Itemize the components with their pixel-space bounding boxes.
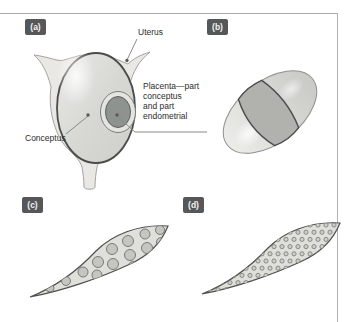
spot	[244, 252, 248, 256]
spot	[196, 223, 200, 227]
panel-c-label: (c)	[22, 197, 43, 213]
spot	[220, 252, 224, 256]
spot	[328, 273, 332, 277]
spot	[332, 252, 336, 256]
spot	[228, 281, 232, 285]
spot	[224, 230, 228, 234]
spot	[308, 237, 312, 241]
spot	[320, 259, 324, 263]
uterus-pointer-dot	[125, 59, 128, 62]
spot	[292, 252, 296, 256]
spot	[268, 252, 272, 256]
spot	[312, 288, 316, 292]
spot	[200, 245, 204, 249]
spot	[340, 223, 344, 227]
spot	[200, 230, 204, 234]
spot	[344, 273, 348, 277]
spot	[280, 273, 284, 277]
spot	[224, 259, 228, 263]
spot	[280, 245, 284, 249]
spot	[228, 266, 232, 270]
spot	[264, 230, 268, 234]
spot	[296, 288, 300, 292]
spot	[252, 266, 256, 270]
spot	[296, 230, 300, 234]
spot	[232, 288, 236, 292]
spot	[332, 281, 336, 285]
spot	[300, 252, 304, 256]
spot	[320, 288, 324, 292]
spot	[312, 230, 316, 234]
spot	[232, 259, 236, 263]
panel-a-label: (a)	[25, 19, 46, 35]
spot	[268, 237, 272, 241]
spot	[204, 266, 208, 270]
spot	[340, 281, 344, 285]
spot	[308, 281, 312, 285]
spot	[142, 243, 153, 254]
spot	[216, 259, 220, 263]
spot	[236, 266, 240, 270]
spot	[228, 223, 232, 227]
spot	[240, 245, 244, 249]
spot	[208, 245, 212, 249]
spot	[304, 245, 308, 249]
spot	[212, 281, 216, 285]
spot	[320, 230, 324, 234]
spot	[344, 230, 348, 234]
uterus-leader-line	[127, 39, 137, 60]
spot	[220, 237, 224, 241]
conceptus-label: Conceptus	[25, 133, 66, 143]
diagram-svg	[0, 0, 351, 322]
placenta-core	[106, 97, 131, 128]
spot	[308, 266, 312, 270]
spot	[276, 281, 280, 285]
spot	[324, 281, 328, 285]
conceptus-pointer-dot	[86, 113, 89, 116]
spot	[92, 270, 102, 280]
spot	[240, 230, 244, 234]
spot	[264, 288, 268, 292]
spot	[316, 237, 320, 241]
spot	[256, 273, 260, 277]
spot	[276, 252, 280, 256]
spot	[320, 273, 324, 277]
spot	[288, 273, 292, 277]
spot	[157, 238, 166, 247]
spot	[244, 237, 248, 241]
spot	[256, 288, 260, 292]
spot	[200, 288, 204, 292]
spot	[272, 288, 276, 292]
spot	[123, 236, 134, 247]
spot	[344, 245, 348, 249]
spot	[344, 288, 348, 292]
spot	[93, 257, 104, 268]
spot	[280, 288, 284, 292]
spot	[328, 259, 332, 263]
spot	[316, 281, 320, 285]
spot	[212, 266, 216, 270]
spot	[212, 252, 216, 256]
spot	[220, 266, 224, 270]
spot	[125, 250, 136, 261]
spot	[328, 288, 332, 292]
spot	[248, 288, 252, 292]
spot	[112, 272, 121, 281]
spot	[248, 230, 252, 234]
spot	[340, 252, 344, 256]
spot	[312, 245, 316, 249]
spot	[260, 237, 264, 241]
spot	[260, 281, 264, 285]
spot	[196, 281, 200, 285]
spot	[320, 245, 324, 249]
panel-b-label: (b)	[207, 19, 228, 35]
spot	[208, 273, 212, 277]
spot	[248, 259, 252, 263]
spot	[324, 252, 328, 256]
spot	[340, 266, 344, 270]
spot	[284, 223, 288, 227]
spot	[292, 223, 296, 227]
spot	[220, 223, 224, 227]
spot	[272, 245, 276, 249]
spot	[296, 245, 300, 249]
